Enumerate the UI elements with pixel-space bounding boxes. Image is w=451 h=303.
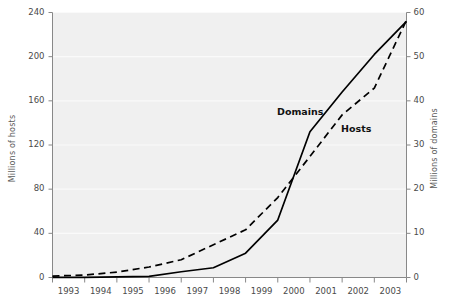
y-axis-left-tick-120: 120 [15,139,45,149]
chart-container: Millions of hosts Millions of domains 04… [0,0,451,303]
chart-plot-area [0,0,451,303]
y-axis-right-tick-0: 0 [414,272,444,282]
y-axis-left-tick-80: 80 [15,183,45,193]
y-axis-right-tick-60: 60 [414,7,444,17]
y-axis-left-tick-200: 200 [15,51,45,61]
y-axis-right-tick-50: 50 [414,51,444,61]
y-axis-right-tick-20: 20 [414,183,444,193]
annotation-hosts: Hosts [341,123,371,134]
y-axis-left-tick-160: 160 [15,95,45,105]
annotation-domains: Domains [277,106,323,117]
y-axis-right-tick-10: 10 [414,227,444,237]
y-axis-left-tick-40: 40 [15,227,45,237]
y-axis-left-tick-0: 0 [15,272,45,282]
x-axis-tick-2003: 2003 [370,286,410,296]
y-axis-right-tick-30: 30 [414,139,444,149]
y-axis-left-tick-240: 240 [15,7,45,17]
y-axis-right-tick-40: 40 [414,95,444,105]
